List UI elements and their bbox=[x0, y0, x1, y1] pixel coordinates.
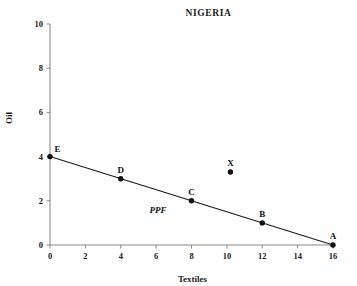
x-tick-label: 16 bbox=[329, 251, 338, 261]
x-axis-title: Textiles bbox=[14, 274, 357, 284]
chart-canvas bbox=[50, 24, 333, 245]
chart-root: NIGERIA 02468100246810121416EDCBAXPPF Te… bbox=[0, 0, 357, 286]
y-tick-label: 6 bbox=[39, 107, 43, 117]
y-tick-label: 8 bbox=[39, 63, 43, 73]
x-tick-label: 12 bbox=[258, 251, 267, 261]
x-tick-label: 2 bbox=[83, 251, 87, 261]
data-point-e bbox=[47, 154, 52, 159]
data-point-a bbox=[330, 242, 335, 247]
point-label-d: D bbox=[118, 165, 125, 175]
y-tick-label: 0 bbox=[39, 240, 43, 250]
data-point-b bbox=[260, 220, 265, 225]
x-tick-label: 6 bbox=[154, 251, 158, 261]
data-point-x bbox=[228, 169, 233, 174]
x-tick-label: 4 bbox=[119, 251, 123, 261]
point-label-x: X bbox=[227, 158, 234, 168]
ppf-curve-label: PPF bbox=[149, 205, 166, 215]
y-tick-label: 2 bbox=[39, 196, 43, 206]
y-tick-label: 4 bbox=[39, 152, 43, 162]
point-label-c: C bbox=[188, 187, 195, 197]
point-label-b: B bbox=[259, 209, 265, 219]
y-tick-label: 10 bbox=[35, 19, 44, 29]
x-tick-label: 8 bbox=[189, 251, 193, 261]
y-axis-title: Oil bbox=[4, 112, 14, 124]
point-label-a: A bbox=[330, 231, 337, 241]
x-tick-label: 0 bbox=[48, 251, 52, 261]
plot-area: 02468100246810121416EDCBAXPPF bbox=[50, 24, 333, 245]
point-label-e: E bbox=[54, 144, 60, 154]
x-tick-label: 10 bbox=[223, 251, 232, 261]
data-point-d bbox=[118, 176, 123, 181]
chart-title: NIGERIA bbox=[30, 8, 357, 18]
x-tick-label: 14 bbox=[293, 251, 302, 261]
data-point-c bbox=[189, 198, 194, 203]
